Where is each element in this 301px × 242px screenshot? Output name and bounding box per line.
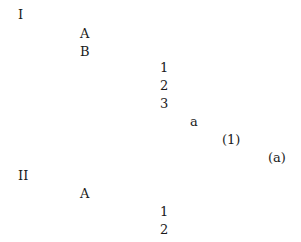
outline-item-level-1: A	[80, 26, 89, 42]
outline-item-level-1: B	[80, 44, 90, 60]
outline-item-level-0: I	[18, 7, 23, 23]
outline-item-level-0: II	[18, 168, 28, 184]
outline-item-level-2: 3	[160, 96, 168, 112]
outline-item-level-2: 2	[160, 78, 168, 94]
outline-item-level-4: (1)	[222, 132, 240, 148]
outline-item-level-2: 1	[160, 60, 168, 76]
outline-item-level-1: A	[80, 186, 89, 202]
outline-item-level-5: (a)	[268, 150, 286, 166]
outline-item-level-2: 1	[160, 204, 168, 220]
outline-item-level-2: 2	[160, 222, 168, 238]
outline-item-level-3: a	[190, 114, 198, 130]
